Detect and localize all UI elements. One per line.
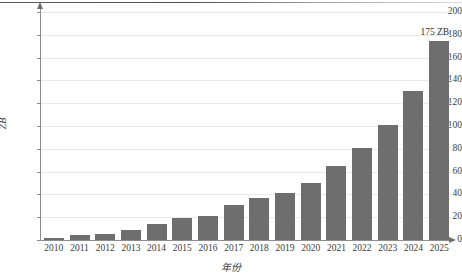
bar — [326, 166, 346, 240]
bar-chart: ZB 020406080100120140160180200 201020112… — [0, 0, 462, 277]
bar — [44, 238, 64, 240]
x-tick-label: 2023 — [375, 244, 401, 254]
x-axis-line — [41, 240, 450, 241]
bar — [378, 125, 398, 240]
bar — [70, 235, 90, 240]
x-tick-label: 2010 — [41, 244, 67, 254]
x-tick-label: 2017 — [221, 244, 247, 254]
x-tick-label: 2011 — [67, 244, 93, 254]
y-axis-title: ZB — [0, 118, 8, 130]
bar — [249, 198, 269, 240]
peak-value-annotation: 175 ZB — [379, 27, 449, 37]
x-tick-label: 2022 — [349, 244, 375, 254]
x-tick-label: 2013 — [118, 244, 144, 254]
gridline — [41, 12, 452, 13]
x-tick-label: 2019 — [272, 244, 298, 254]
bar — [172, 218, 192, 240]
bar — [429, 41, 449, 241]
bar — [224, 205, 244, 240]
x-tick-label: 2020 — [298, 244, 324, 254]
x-tick-label: 2025 — [426, 244, 452, 254]
plot-area — [41, 12, 452, 240]
x-tick-label: 2021 — [324, 244, 350, 254]
bar — [95, 234, 115, 240]
x-tick-label: 2015 — [169, 244, 195, 254]
gridline — [41, 58, 452, 59]
x-tick-label: 2012 — [92, 244, 118, 254]
bar — [147, 224, 167, 240]
bar — [121, 230, 141, 240]
x-tick-label: 2014 — [144, 244, 170, 254]
y-axis-arrow-icon — [37, 2, 43, 9]
bar — [275, 193, 295, 240]
bar — [352, 148, 372, 240]
x-axis-title: 年份 — [0, 259, 462, 274]
x-tick-label: 2016 — [195, 244, 221, 254]
bar — [403, 91, 423, 240]
gridline — [41, 103, 452, 104]
x-tick-label: 2024 — [401, 244, 427, 254]
gridline — [41, 80, 452, 81]
y-tick-mark — [37, 240, 41, 241]
bar — [198, 216, 218, 240]
bar — [301, 183, 321, 240]
x-tick-label: 2018 — [247, 244, 273, 254]
